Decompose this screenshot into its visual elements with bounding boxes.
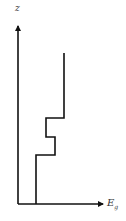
bandgap-profile-diagram [0,0,126,221]
x-axis-label-subscript: g [114,203,118,210]
step-profile-line [36,53,64,204]
y-axis-label: z [15,3,20,13]
x-axis-label: Eg [107,197,118,210]
